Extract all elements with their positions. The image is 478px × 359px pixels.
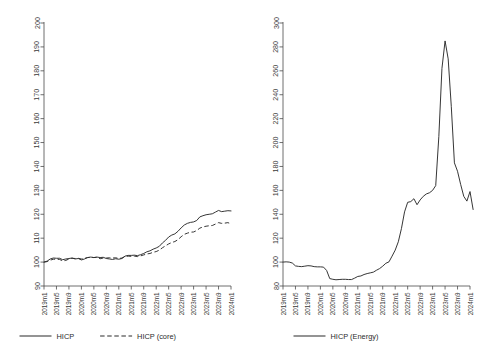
hicp-panel: 90100110120130140150160170180190200 2019… [0, 0, 239, 359]
energy-ytick-label: 280 [273, 41, 281, 53]
energy-xtick-label: 2023m9 [454, 292, 461, 315]
energy-xtick-label: 2021m5 [367, 292, 374, 315]
energy-ytick-label: 240 [273, 89, 281, 101]
hicp-ytick-label: 140 [34, 160, 42, 172]
energy-ytick-label: 120 [273, 232, 281, 244]
legend-label-0: HICP [57, 332, 75, 341]
energy-xtick-label: 2019m9 [304, 292, 311, 315]
hicp-xtick-label: 2022m9 [178, 292, 185, 315]
hicp-ytick-label: 100 [34, 256, 42, 268]
hicp-xtick-label: 2019m5 [53, 292, 60, 315]
hicp-xtick-label: 2023m5 [203, 292, 210, 315]
hicp-xtick-label: 2021m9 [140, 292, 147, 315]
hicp-ytick-label: 120 [34, 208, 42, 220]
energy-xtick-label: 2023m1 [429, 292, 436, 315]
hicp-panel-svg: 90100110120130140150160170180190200 2019… [0, 0, 239, 359]
energy-series-0 [283, 41, 473, 280]
hicp-xtick-label: 2019m9 [65, 292, 72, 315]
legend-label-0: HICP (Energy) [331, 332, 379, 341]
hicp-series-0 [44, 210, 231, 262]
hicp-ytick-label: 170 [34, 89, 42, 101]
hicp-ytick-label: 90 [34, 282, 42, 290]
energy-xtick-label: 2021m9 [379, 292, 386, 315]
energy-legend: HICP (Energy) [294, 332, 379, 341]
energy-panel-svg: 80100120140160180200220240260280300 2019… [239, 0, 478, 359]
energy-xtick-label: 2022m1 [392, 292, 399, 315]
hicp-ytick-label: 200 [34, 17, 42, 29]
hicp-xtick-label: 2019m1 [41, 292, 48, 315]
hicp-xtick-label: 2020m1 [78, 292, 85, 315]
hicp-ytick-label: 180 [34, 65, 42, 77]
figure-container: 90100110120130140150160170180190200 2019… [0, 0, 478, 359]
hicp-ytick-label: 150 [34, 137, 42, 149]
energy-panel: 80100120140160180200220240260280300 2019… [239, 0, 478, 359]
energy-xtick-label: 2020m9 [342, 292, 349, 315]
legend-label-1: HICP (core) [137, 332, 176, 341]
energy-xtick-label: 2023m5 [442, 292, 449, 315]
energy-ytick-label: 180 [273, 160, 281, 172]
hicp-xtick-label: 2023m9 [215, 292, 222, 315]
energy-xtick-label: 2021m1 [354, 292, 361, 315]
energy-ytick-label: 140 [273, 208, 281, 220]
hicp-xtick-label: 2022m5 [165, 292, 172, 315]
hicp-xtick-label: 2021m1 [115, 292, 122, 315]
energy-x-axis: 2019m12019m52019m92020m12020m52020m92021… [280, 286, 474, 315]
energy-ytick-label: 260 [273, 65, 281, 77]
energy-ytick-label: 200 [273, 137, 281, 149]
energy-xtick-label: 2019m5 [292, 292, 299, 315]
energy-xtick-label: 2024m1 [467, 292, 474, 315]
energy-xtick-label: 2020m5 [329, 292, 336, 315]
energy-xtick-label: 2019m1 [280, 292, 287, 315]
energy-xtick-label: 2022m5 [404, 292, 411, 315]
energy-xtick-label: 2020m1 [317, 292, 324, 315]
hicp-ytick-label: 160 [34, 113, 42, 125]
hicp-legend: HICPHICP (core) [20, 332, 176, 341]
hicp-xtick-label: 2020m5 [90, 292, 97, 315]
hicp-x-axis: 2019m12019m52019m92020m12020m52020m92021… [41, 286, 235, 315]
energy-xtick-label: 2022m9 [417, 292, 424, 315]
hicp-xtick-label: 2024m1 [228, 292, 235, 315]
hicp-xtick-label: 2023m1 [190, 292, 197, 315]
hicp-ytick-label: 110 [34, 232, 42, 243]
hicp-xtick-label: 2021m5 [128, 292, 135, 315]
energy-ytick-label: 160 [273, 184, 281, 196]
hicp-ytick-label: 130 [34, 184, 42, 196]
hicp-series-1 [44, 223, 231, 262]
hicp-y-axis: 90100110120130140150160170180190200 [34, 17, 45, 290]
energy-y-axis: 80100120140160180200220240260280300 [273, 17, 284, 290]
energy-ytick-label: 80 [273, 282, 281, 290]
hicp-ytick-label: 190 [34, 41, 42, 53]
energy-ytick-label: 300 [273, 17, 281, 29]
hicp-xtick-label: 2020m9 [103, 292, 110, 315]
hicp-plot-area [44, 210, 231, 262]
hicp-xtick-label: 2022m1 [153, 292, 160, 315]
energy-ytick-label: 100 [273, 256, 281, 268]
energy-plot-area [283, 41, 473, 280]
energy-ytick-label: 220 [273, 113, 281, 125]
